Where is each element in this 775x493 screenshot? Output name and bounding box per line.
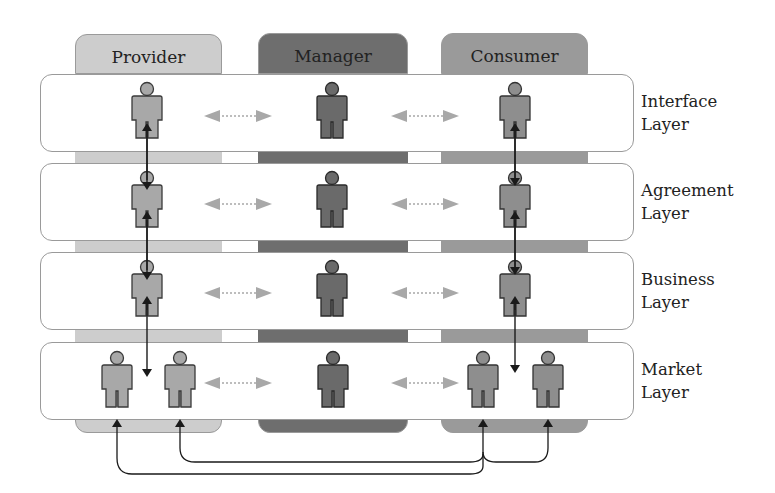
- market-connection-arrow-icon: [117, 423, 548, 474]
- manager-person-icon: [317, 172, 347, 228]
- provider-person-icon: [102, 352, 132, 408]
- flow-arrow-icon: [147, 127, 515, 373]
- consumer-person-icon: [468, 352, 498, 408]
- consumer-person-icon: [533, 352, 563, 408]
- bidirectional-arrow-icon: [218, 116, 445, 383]
- manager-person-icon: [317, 83, 347, 139]
- diagram-overlay: [0, 0, 775, 493]
- manager-person-icon: [317, 261, 347, 317]
- provider-person-icon: [165, 352, 195, 408]
- manager-person-icon: [318, 352, 348, 408]
